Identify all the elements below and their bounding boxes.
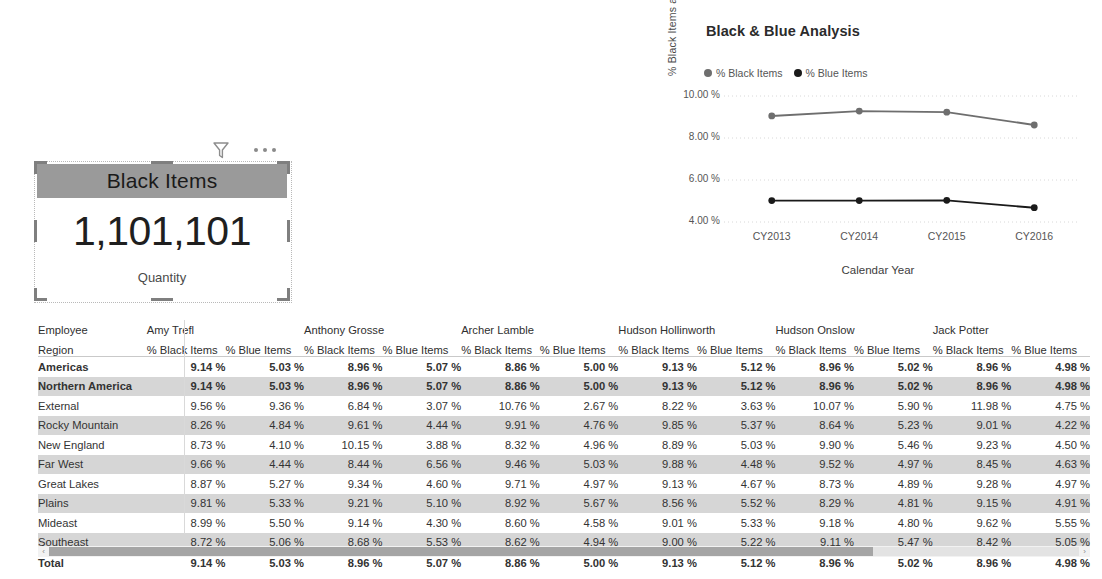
- header-measure-black-items[interactable]: % Black Items: [147, 336, 226, 357]
- table-cell-value: 8.44 %: [304, 455, 383, 475]
- matrix-body: Americas9.14 %5.03 %8.96 %5.07 %8.86 %5.…: [38, 357, 1090, 573]
- table-cell-value: 4.84 %: [225, 416, 304, 436]
- row-header-region[interactable]: New England: [38, 435, 147, 455]
- table-cell-value: 4.75 %: [1011, 396, 1090, 416]
- table-cell-value: 8.99 %: [147, 513, 226, 533]
- header-measure-blue-items[interactable]: % Blue Items: [383, 336, 462, 357]
- matrix-horizontal-scrollbar[interactable]: ‹ ›: [38, 546, 1090, 557]
- table-row[interactable]: Plains9.81 %5.33 %9.21 %5.10 %8.92 %5.67…: [38, 494, 1090, 514]
- table-cell-value: 9.15 %: [933, 494, 1012, 514]
- table-cell-value: 4.50 %: [1011, 435, 1090, 455]
- table-row[interactable]: Northern America9.14 %5.03 %8.96 %5.07 %…: [38, 377, 1090, 397]
- header-employee[interactable]: Employee: [38, 320, 147, 336]
- row-header-region[interactable]: Plains: [38, 494, 147, 514]
- header-employee-anthony-grosse[interactable]: Anthony Grosse: [304, 320, 461, 336]
- legend-swatch-black-items: [704, 69, 712, 77]
- table-row[interactable]: Great Lakes8.87 %5.27 %9.34 %4.60 %9.71 …: [38, 474, 1090, 494]
- row-header-region[interactable]: Rocky Mountain: [38, 416, 147, 436]
- table-cell-value: 8.32 %: [461, 435, 540, 455]
- black-items-card-visual[interactable]: Black Items 1,101,101 Quantity: [37, 164, 287, 298]
- row-header-region[interactable]: Far West: [38, 455, 147, 475]
- matrix-table: Employee Amy Trefl Anthony Grosse Archer…: [38, 320, 1090, 573]
- table-row[interactable]: Americas9.14 %5.03 %8.96 %5.07 %8.86 %5.…: [38, 357, 1090, 377]
- row-header-region[interactable]: External: [38, 396, 147, 416]
- card-value: 1,101,101: [37, 208, 287, 255]
- table-cell-value: 8.87 %: [147, 474, 226, 494]
- header-employee-hudson-onslow[interactable]: Hudson Onslow: [775, 320, 932, 336]
- table-cell-value: 9.90 %: [775, 435, 854, 455]
- table-cell-value: 8.60 %: [461, 513, 540, 533]
- header-measure-black-items[interactable]: % Black Items: [304, 336, 383, 357]
- table-cell-value: 5.37 %: [697, 416, 776, 436]
- header-measure-black-items[interactable]: % Black Items: [933, 336, 1012, 357]
- table-cell-value: 9.14 %: [147, 377, 226, 397]
- table-cell-value: 4.91 %: [1011, 494, 1090, 514]
- table-cell-value: 5.03 %: [225, 377, 304, 397]
- scrollbar-thumb[interactable]: [49, 547, 873, 556]
- table-row[interactable]: Mideast8.99 %5.50 %9.14 %4.30 %8.60 %4.5…: [38, 513, 1090, 533]
- table-cell-value: 9.71 %: [461, 474, 540, 494]
- header-measure-blue-items[interactable]: % Blue Items: [697, 336, 776, 357]
- legend-item-black-items[interactable]: % Black Items: [704, 67, 783, 79]
- table-cell-value: 2.67 %: [540, 396, 619, 416]
- table-row[interactable]: New England8.73 %4.10 %10.15 %3.88 %8.32…: [38, 435, 1090, 455]
- scroll-right-arrow-icon[interactable]: ›: [1079, 546, 1090, 557]
- table-row[interactable]: Far West9.66 %4.44 %8.44 %6.56 %9.46 %5.…: [38, 455, 1090, 475]
- row-header-region[interactable]: Americas: [38, 357, 147, 377]
- table-cell-value: 3.88 %: [383, 435, 462, 455]
- table-cell-value: 5.03 %: [225, 357, 304, 377]
- card-sublabel: Quantity: [37, 270, 287, 285]
- header-employee-archer-lamble[interactable]: Archer Lamble: [461, 320, 618, 336]
- matrix-header-measure-row: Region % Black Items% Blue Items% Black …: [38, 336, 1090, 357]
- table-cell-value: 8.56 %: [618, 494, 697, 514]
- legend-swatch-blue-items: [794, 69, 802, 77]
- black-and-blue-analysis-chart[interactable]: Black & Blue Analysis % Black Items % Bl…: [668, 14, 1088, 294]
- scroll-left-arrow-icon[interactable]: ‹: [38, 546, 49, 557]
- table-cell-value: 10.07 %: [775, 396, 854, 416]
- header-measure-black-items[interactable]: % Black Items: [618, 336, 697, 357]
- header-measure-blue-items[interactable]: % Blue Items: [1011, 336, 1090, 357]
- table-cell-value: 4.58 %: [540, 513, 619, 533]
- filter-icon[interactable]: [210, 139, 232, 165]
- table-cell-value: 5.90 %: [854, 396, 933, 416]
- table-cell-value: 5.10 %: [383, 494, 462, 514]
- table-cell-value: 9.01 %: [933, 416, 1012, 436]
- header-measure-blue-items[interactable]: % Blue Items: [540, 336, 619, 357]
- chart-x-tick-label: CY2014: [819, 230, 899, 242]
- scrollbar-track[interactable]: [49, 547, 1079, 556]
- table-cell-value: 8.96 %: [775, 377, 854, 397]
- matrix-visual[interactable]: Employee Amy Trefl Anthony Grosse Archer…: [38, 320, 1090, 573]
- table-cell-value: 9.23 %: [933, 435, 1012, 455]
- table-cell-value: 5.12 %: [697, 377, 776, 397]
- table-cell-value: 9.62 %: [933, 513, 1012, 533]
- header-measure-black-items[interactable]: % Black Items: [461, 336, 540, 357]
- table-row[interactable]: Rocky Mountain8.26 %4.84 %9.61 %4.44 %9.…: [38, 416, 1090, 436]
- table-cell-value: 9.14 %: [147, 357, 226, 377]
- table-cell-value: 5.27 %: [225, 474, 304, 494]
- header-measure-blue-items[interactable]: % Blue Items: [854, 336, 933, 357]
- table-cell-value: 5.07 %: [383, 357, 462, 377]
- row-header-region[interactable]: Great Lakes: [38, 474, 147, 494]
- table-cell-value: 5.50 %: [225, 513, 304, 533]
- row-header-region[interactable]: Northern America: [38, 377, 147, 397]
- table-cell-value: 10.15 %: [304, 435, 383, 455]
- chart-y-tick-label: 10.00 %: [668, 89, 720, 100]
- legend-item-blue-items[interactable]: % Blue Items: [794, 67, 868, 79]
- table-cell-value: 8.96 %: [304, 357, 383, 377]
- header-measure-black-items[interactable]: % Black Items: [775, 336, 854, 357]
- legend-label-blue-items: % Blue Items: [806, 67, 868, 79]
- row-header-region[interactable]: Mideast: [38, 513, 147, 533]
- table-cell-value: 4.44 %: [383, 416, 462, 436]
- header-employee-jack-potter[interactable]: Jack Potter: [933, 320, 1090, 336]
- header-employee-amy-trefl[interactable]: Amy Trefl: [147, 320, 304, 336]
- table-cell-value: 4.10 %: [225, 435, 304, 455]
- table-cell-value: 4.89 %: [854, 474, 933, 494]
- table-cell-value: 9.14 %: [304, 513, 383, 533]
- more-options-icon[interactable]: [254, 148, 280, 154]
- table-cell-value: 9.85 %: [618, 416, 697, 436]
- header-measure-blue-items[interactable]: % Blue Items: [225, 336, 304, 357]
- header-region[interactable]: Region: [38, 336, 147, 357]
- header-employee-hudson-hollinworth[interactable]: Hudson Hollinworth: [618, 320, 775, 336]
- table-row[interactable]: External9.56 %9.36 %6.84 %3.07 %10.76 %2…: [38, 396, 1090, 416]
- table-cell-value: 4.63 %: [1011, 455, 1090, 475]
